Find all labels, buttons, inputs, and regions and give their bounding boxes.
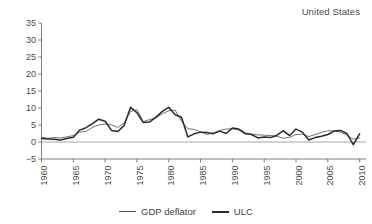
chart-legend: GDP deflator ULC bbox=[0, 206, 372, 217]
series-line-gdp-deflator bbox=[42, 110, 360, 140]
data-series-group bbox=[42, 107, 360, 144]
y-tick-label: 30 bbox=[26, 35, 36, 45]
y-tick-label: 25 bbox=[26, 52, 36, 62]
legend-line-icon-ulc bbox=[212, 211, 229, 213]
legend-item-gdp-deflator[interactable]: GDP deflator bbox=[119, 206, 196, 217]
legend-label-ulc: ULC bbox=[234, 206, 253, 217]
y-axis: −505101520253035 bbox=[26, 18, 42, 164]
series-line-ulc bbox=[42, 107, 360, 144]
x-tick-label: 1975 bbox=[135, 166, 145, 186]
y-tick-label: 20 bbox=[26, 69, 36, 79]
x-tick-label: 1980 bbox=[166, 166, 176, 186]
y-tick-label: 5 bbox=[31, 120, 36, 130]
y-tick-label: 10 bbox=[26, 103, 36, 113]
x-tick-label: 1965 bbox=[71, 166, 81, 186]
chart-container: United States −505101520253035 196019651… bbox=[0, 0, 372, 224]
x-tick-label: 1985 bbox=[198, 166, 208, 186]
x-tick-label: 2000 bbox=[294, 166, 304, 186]
plot-area: −505101520253035 19601965197019751980198… bbox=[0, 0, 372, 224]
x-tick-label: 1990 bbox=[230, 166, 240, 186]
x-tick-label: 1970 bbox=[103, 166, 113, 186]
x-tick-label: 2010 bbox=[357, 166, 367, 186]
legend-line-icon-gdp-deflator bbox=[119, 211, 136, 212]
legend-label-gdp-deflator: GDP deflator bbox=[141, 206, 196, 217]
y-tick-label: −5 bbox=[26, 154, 36, 164]
y-tick-label: 35 bbox=[26, 18, 36, 28]
y-tick-label: 15 bbox=[26, 86, 36, 96]
x-tick-label: 1960 bbox=[39, 166, 49, 186]
legend-item-ulc[interactable]: ULC bbox=[212, 206, 253, 217]
x-tick-label: 1995 bbox=[262, 166, 272, 186]
y-tick-label: 0 bbox=[31, 137, 36, 147]
x-tick-label: 2005 bbox=[325, 166, 335, 186]
x-axis: 1960196519701975198019851990199520002005… bbox=[39, 159, 367, 186]
